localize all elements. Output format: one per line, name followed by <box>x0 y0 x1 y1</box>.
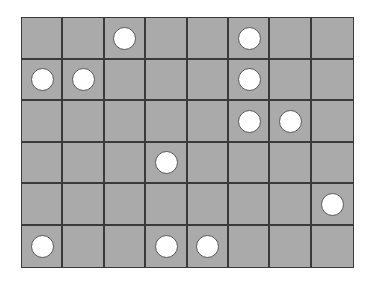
board-cell-r1-c1[interactable] <box>63 60 104 102</box>
white-piece[interactable] <box>321 193 344 216</box>
board-cell-r3-c2[interactable] <box>105 143 146 185</box>
white-piece[interactable] <box>31 68 54 91</box>
white-piece[interactable] <box>238 68 261 91</box>
board-cell-r4-c5[interactable] <box>229 184 270 226</box>
board-cell-r0-c0[interactable] <box>22 18 63 60</box>
board-cell-r1-c7[interactable] <box>312 60 353 102</box>
board-cell-r5-c3[interactable] <box>146 226 187 268</box>
board-cell-r3-c5[interactable] <box>229 143 270 185</box>
board-cell-r3-c7[interactable] <box>312 143 353 185</box>
board-cell-r4-c0[interactable] <box>22 184 63 226</box>
board-cell-r5-c6[interactable] <box>270 226 311 268</box>
board-cell-r2-c7[interactable] <box>312 101 353 143</box>
board-cell-r0-c3[interactable] <box>146 18 187 60</box>
white-piece[interactable] <box>155 151 178 174</box>
board-cell-r2-c0[interactable] <box>22 101 63 143</box>
board-cell-r5-c7[interactable] <box>312 226 353 268</box>
board-cell-r2-c5[interactable] <box>229 101 270 143</box>
board-cell-r2-c1[interactable] <box>63 101 104 143</box>
board-cell-r0-c5[interactable] <box>229 18 270 60</box>
board-cell-r4-c2[interactable] <box>105 184 146 226</box>
board-cell-r0-c6[interactable] <box>270 18 311 60</box>
white-piece[interactable] <box>31 235 54 258</box>
board-cell-r1-c5[interactable] <box>229 60 270 102</box>
board-cell-r4-c7[interactable] <box>312 184 353 226</box>
board-cell-r3-c4[interactable] <box>188 143 229 185</box>
board-cell-r3-c6[interactable] <box>270 143 311 185</box>
board-cell-r3-c1[interactable] <box>63 143 104 185</box>
board-cell-r0-c2[interactable] <box>105 18 146 60</box>
board-cell-r4-c1[interactable] <box>63 184 104 226</box>
board-cell-r5-c1[interactable] <box>63 226 104 268</box>
white-piece[interactable] <box>196 235 219 258</box>
board-cell-r4-c3[interactable] <box>146 184 187 226</box>
white-piece[interactable] <box>155 235 178 258</box>
white-piece[interactable] <box>238 110 261 133</box>
board-cell-r5-c5[interactable] <box>229 226 270 268</box>
game-board <box>21 17 354 268</box>
board-cell-r2-c6[interactable] <box>270 101 311 143</box>
board-cell-r2-c3[interactable] <box>146 101 187 143</box>
white-piece[interactable] <box>113 27 136 50</box>
board-cell-r0-c4[interactable] <box>188 18 229 60</box>
board-cell-r0-c7[interactable] <box>312 18 353 60</box>
board-cell-r1-c4[interactable] <box>188 60 229 102</box>
board-cell-r0-c1[interactable] <box>63 18 104 60</box>
white-piece[interactable] <box>279 110 302 133</box>
white-piece[interactable] <box>72 68 95 91</box>
board-cell-r1-c2[interactable] <box>105 60 146 102</box>
board-cell-r5-c0[interactable] <box>22 226 63 268</box>
board-cell-r1-c0[interactable] <box>22 60 63 102</box>
board-cell-r4-c6[interactable] <box>270 184 311 226</box>
board-cell-r1-c3[interactable] <box>146 60 187 102</box>
board-cell-r2-c4[interactable] <box>188 101 229 143</box>
board-cell-r5-c4[interactable] <box>188 226 229 268</box>
board-cell-r5-c2[interactable] <box>105 226 146 268</box>
board-cell-r2-c2[interactable] <box>105 101 146 143</box>
board-cell-r1-c6[interactable] <box>270 60 311 102</box>
board-cell-r3-c3[interactable] <box>146 143 187 185</box>
board-cell-r4-c4[interactable] <box>188 184 229 226</box>
white-piece[interactable] <box>238 27 261 50</box>
board-cell-r3-c0[interactable] <box>22 143 63 185</box>
